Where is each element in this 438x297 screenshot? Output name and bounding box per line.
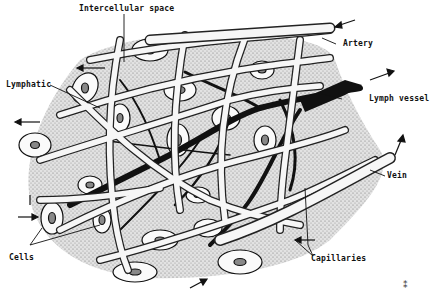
diagram: ⁑ Intercellular space Artery Lymphatic L… [0, 0, 438, 297]
label-lymph-vessel: Lymph vessel [369, 94, 429, 104]
label-lymphatic: Lymphatic [6, 80, 51, 90]
label-vein: Vein [387, 171, 407, 181]
corner-mark: ⁑ [403, 279, 408, 290]
label-cells: Cells [9, 253, 34, 263]
label-artery: Artery [343, 39, 373, 49]
label-capillaries: Capillaries [311, 254, 366, 264]
label-intercellular-space: Intercellular space [79, 4, 174, 14]
